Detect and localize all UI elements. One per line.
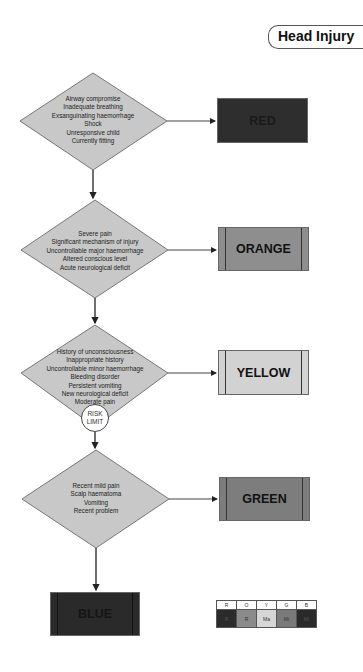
criterion: Currently fitting	[52, 137, 134, 145]
box-border	[301, 351, 302, 394]
criterion: Shock	[52, 120, 134, 128]
criterion: Uncontrollable major haemorrhage	[47, 247, 144, 255]
criterion: Altered conscious level	[47, 255, 144, 263]
outcome-green: GREEN	[219, 477, 310, 521]
outcome-red-label: RED	[249, 114, 275, 128]
outcome-blue: BLUE	[50, 592, 140, 636]
legend-cell-yellow: Ma	[257, 610, 277, 628]
criterion: Airway compromise	[52, 95, 134, 103]
criterion: Acute neurological deficit	[47, 264, 144, 272]
box-border	[225, 351, 226, 394]
box-border	[225, 228, 226, 270]
criterion: Scalp haematoma	[71, 490, 122, 498]
box-border	[57, 593, 58, 635]
criterion: History of unconsciousness	[47, 348, 144, 356]
legend-header-o: O	[237, 601, 257, 610]
outcome-orange: ORANGE	[218, 227, 309, 271]
criterion: Unresponsive child	[52, 129, 134, 137]
outcome-yellow-label: YELLOW	[237, 366, 290, 380]
legend-header-y: Y	[257, 601, 277, 610]
outcome-yellow: YELLOW	[218, 350, 309, 395]
criterion: Significant mechanism of injury	[47, 238, 144, 246]
criterion: Recent problem	[71, 507, 122, 515]
diamond-2-text: Severe pain Significant mechanism of inj…	[47, 230, 144, 272]
outcome-red: RED	[217, 98, 308, 143]
outcome-green-label: GREEN	[242, 492, 286, 506]
criterion: Vomiting	[71, 499, 122, 507]
criterion: Bleeding disorder	[47, 373, 144, 381]
legend-header-b: B	[297, 601, 317, 610]
outcome-blue-label: BLUE	[78, 607, 112, 621]
limit-label: LIMIT	[82, 418, 108, 426]
legend-header-r: R	[217, 601, 237, 610]
risk-label: RISK	[82, 410, 108, 418]
risk-limit-marker: RISK LIMIT	[81, 404, 109, 432]
criterion: Recent mild pain	[71, 482, 122, 490]
box-border	[301, 228, 302, 270]
legend-cell-orange: R	[237, 610, 257, 628]
outcome-orange-label: ORANGE	[236, 242, 291, 256]
legend-cell-red: R	[217, 610, 237, 628]
legend-header-g: G	[277, 601, 297, 610]
criterion: Exsanguinating haemorrhage	[52, 112, 134, 120]
diamond-4-text: Recent mild pain Scalp haematoma Vomitin…	[71, 482, 122, 516]
diamond-3-text: History of unconsciousness Inappropriate…	[47, 348, 144, 407]
box-border	[226, 478, 227, 520]
diamond-1-text: Airway compromise Inadequate breathing E…	[52, 95, 134, 145]
criterion: New neurological deficit	[47, 390, 144, 398]
criterion: Inadequate breathing	[52, 103, 134, 111]
box-border	[132, 593, 133, 635]
legend-cell-green: Mi	[277, 610, 297, 628]
criterion: Uncontrollable minor haemorrhage	[47, 365, 144, 373]
legend-cell-blue: Mi	[297, 610, 317, 628]
criterion: Inappropriate history	[47, 356, 144, 364]
priority-legend: R O Y G B R R Ma Mi Mi	[216, 600, 317, 628]
criterion: Persistent vomiting	[47, 382, 144, 390]
box-border	[302, 478, 303, 520]
criterion: Severe pain	[47, 230, 144, 238]
